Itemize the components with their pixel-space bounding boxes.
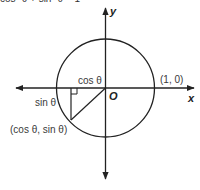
- right-angle-marker: [71, 88, 77, 94]
- cos-theta-label: cos θ: [78, 75, 102, 86]
- sin-theta-label: sin θ: [35, 97, 57, 108]
- radius-line: [71, 88, 106, 120]
- x-axis-label: x: [187, 92, 195, 104]
- point-1-0-label: (1, 0): [160, 74, 183, 85]
- y-axis-label: y: [109, 5, 117, 17]
- origin-label: O: [109, 90, 118, 102]
- unit-circle-diagram: y x O (1, 0) cos θ sin θ (cos θ, sin θ): [0, 0, 200, 190]
- point-on-circle-label: (cos θ, sin θ): [10, 124, 67, 135]
